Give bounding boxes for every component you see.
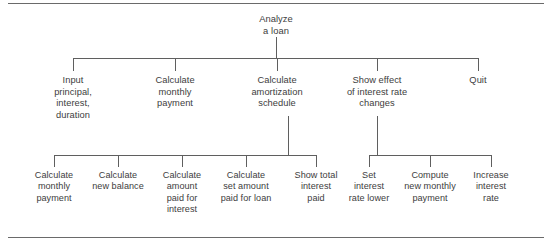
node-calculate-amortization-schedule: Calculate amortization schedule xyxy=(230,75,324,110)
connector-stub-l3r-1 xyxy=(369,155,370,167)
node-root-analyze-a-loan: Analyze a loan xyxy=(236,13,316,36)
top-rule xyxy=(8,3,544,4)
connector-stub-l3l-1 xyxy=(54,155,55,167)
node-input-principal-interest-duration: Input principal, interest, duration xyxy=(33,75,113,121)
connector-root-stem xyxy=(276,37,277,58)
connector-stub-l3l-5 xyxy=(316,155,317,167)
node-calculate-set-amount-paid-for-loan: Calculate set amount paid for loan xyxy=(202,170,290,204)
connector-stub-l3l-2 xyxy=(118,155,119,167)
connector-show-effect-stem xyxy=(377,116,378,155)
node-increase-interest-rate: Increase interest rate xyxy=(462,170,520,204)
connector-level2-bus xyxy=(73,58,479,59)
connector-stub-l3l-4 xyxy=(246,155,247,167)
node-quit: Quit xyxy=(448,75,508,87)
connector-stub-l2-3 xyxy=(277,58,278,71)
bottom-rule xyxy=(8,237,544,238)
connector-level3-left-bus xyxy=(54,155,317,156)
node-calculate-monthly-payment: Calculate monthly payment xyxy=(135,75,215,110)
connector-amortization-stem xyxy=(288,116,289,155)
connector-stub-l3r-3 xyxy=(491,155,492,167)
connector-stub-l3l-3 xyxy=(182,155,183,167)
connector-stub-l2-1 xyxy=(73,58,74,71)
node-show-effect-of-interest-rate-changes: Show effect of interest rate changes xyxy=(330,75,424,110)
connector-stub-l2-4 xyxy=(377,58,378,71)
node-compute-new-monthly-payment: Compute new monthly payment xyxy=(390,170,470,204)
connector-stub-l2-5 xyxy=(478,58,479,71)
connector-stub-l2-2 xyxy=(175,58,176,71)
tree-diagram-figure: Analyze a loan Input principal, interest… xyxy=(0,0,552,245)
connector-stub-l3r-2 xyxy=(430,155,431,167)
